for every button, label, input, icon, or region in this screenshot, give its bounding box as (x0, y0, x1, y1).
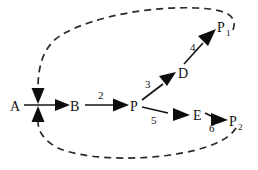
node-label-p1-letter: P (217, 20, 225, 35)
solid-edge-p-to-d-arrowhead (159, 72, 176, 86)
node-label-p: P (130, 99, 138, 114)
dashed-edge-p1-to-a-path (38, 8, 234, 88)
dashed-edge-p1-to-a (32, 8, 235, 104)
diagram-canvas: A B P D E P 1 P 2 2 3 4 5 6 (0, 0, 258, 170)
solid-edge-p-to-e (142, 107, 190, 121)
edge-label-p-to-d: 3 (145, 78, 151, 90)
edge-label-b-to-p: 2 (98, 89, 104, 101)
node-label-p2-letter: P (229, 114, 237, 129)
solid-edge-d-to-p1-arrowhead (198, 29, 216, 46)
node-label-d: D (178, 66, 188, 81)
solid-edge-b-to-p (85, 99, 129, 112)
solid-edge-d-to-p1 (184, 29, 216, 64)
node-label-p1: P 1 (217, 20, 231, 38)
graph-svg: A B P D E P 1 P 2 2 3 4 5 6 (0, 0, 258, 170)
solid-edge-b-to-p-arrowhead (113, 99, 129, 112)
solid-edge-p-to-e-arrowhead (173, 108, 190, 121)
node-label-a: A (10, 99, 21, 114)
edge-label-d-to-p1: 4 (190, 41, 196, 53)
node-label-p2-subscript: 2 (238, 122, 243, 132)
node-label-b: B (70, 99, 79, 114)
solid-edge-a-to-b (24, 99, 70, 111)
dashed-edge-p2-to-a-path (38, 122, 236, 158)
node-label-p1-subscript: 1 (226, 28, 231, 38)
dashed-edge-p2-to-a-arrowhead (32, 106, 45, 122)
solid-edge-p-to-e-line (142, 107, 168, 113)
node-label-e: E (193, 108, 202, 123)
edge-label-e-to-p2: 6 (209, 122, 215, 134)
solid-edge-a-to-b-arrowhead (55, 99, 70, 111)
edge-label-p-to-e: 5 (151, 114, 157, 126)
dashed-edge-p1-to-a-arrowhead (32, 88, 45, 104)
